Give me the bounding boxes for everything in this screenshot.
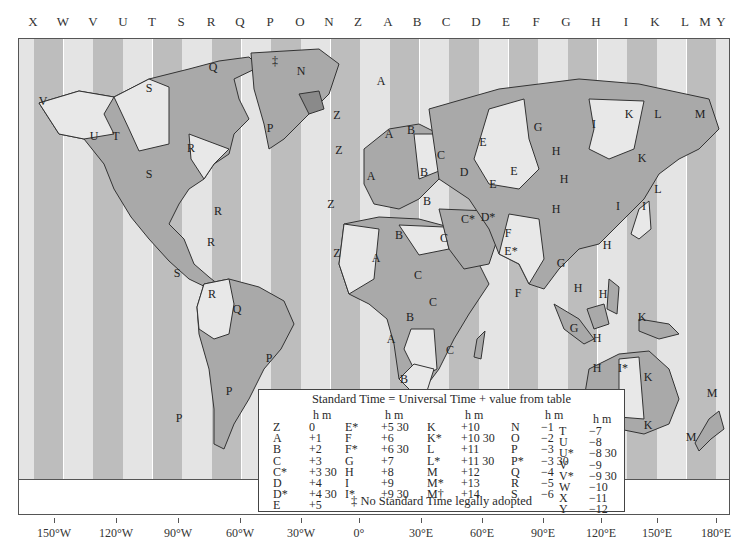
zone-label: B (420, 165, 428, 180)
zone-label: B (423, 194, 431, 209)
zone-label: P (226, 384, 233, 399)
longitude-tick (240, 518, 241, 523)
zone-label: L (654, 107, 661, 122)
zone-letter: M (699, 14, 711, 30)
legend-title: Standard Time = Universal Time + value f… (259, 394, 624, 406)
zone-label: Q (233, 302, 242, 317)
zone-letter: D (471, 14, 480, 30)
zone-label: A (387, 332, 396, 347)
zone-letter: B (413, 14, 422, 30)
zone-label: A (367, 169, 376, 184)
zone-letter-row: XWVUTSRQPONZABCDEFGHIKLMY (0, 14, 745, 34)
zone-label: S (146, 81, 153, 96)
zone-label: Z (327, 197, 334, 212)
zone-letter: G (561, 14, 570, 30)
zone-label: P (267, 121, 274, 136)
zone-label: Z (335, 143, 342, 158)
zone-label: E (489, 177, 496, 192)
longitude-label: 120°E (586, 526, 616, 541)
zone-label: I* (618, 361, 628, 376)
zone-letter: S (177, 14, 184, 30)
zone-letter: W (57, 14, 69, 30)
longitude-label: 30°W (287, 526, 315, 541)
zone-label: T (112, 129, 119, 144)
zone-letter: F (532, 14, 539, 30)
zone-label: H (560, 172, 569, 187)
zone-label: C (414, 268, 422, 283)
zone-label: R (214, 204, 222, 219)
zone-label: P (176, 411, 183, 426)
zone-label: E (479, 135, 486, 150)
zone-label: C (429, 295, 437, 310)
zone-letter: X (28, 14, 37, 30)
zone-letter: R (207, 14, 216, 30)
longitude-label: 60°E (470, 526, 494, 541)
zone-label: G (557, 256, 566, 271)
longitude-label: 0° (354, 526, 365, 541)
zone-label: K (644, 418, 653, 433)
greenland (251, 49, 339, 149)
longitude-tick (421, 518, 422, 523)
longitude-label: 180°E (701, 526, 731, 541)
zone-label: M (686, 430, 697, 445)
zone-label: K (638, 151, 647, 166)
zone-label: M (695, 107, 706, 122)
longitude-tick (601, 518, 602, 523)
zone-label: B (406, 310, 414, 325)
zone-letter: Y (716, 14, 725, 30)
zone-label: D (460, 165, 469, 180)
longitude-label: 120°W (99, 526, 133, 541)
zone-label: L (654, 182, 661, 197)
zone-letter: I (624, 14, 628, 30)
longitude-label: 150°E (642, 526, 672, 541)
zone-label: B (395, 228, 403, 243)
zone-label: G (534, 120, 543, 135)
longitude-label: 90°E (531, 526, 555, 541)
zone-label: K (644, 370, 653, 385)
zone-label: C* (461, 212, 475, 227)
longitude-tick (301, 518, 302, 523)
zone-label: I (642, 199, 646, 214)
zone-label: R (207, 235, 215, 250)
zone-label: I (592, 117, 596, 132)
zone-label: Z (333, 246, 340, 261)
zone-letter: A (383, 14, 392, 30)
zone-letter: Q (235, 14, 244, 30)
zone-label: A (385, 127, 394, 142)
zone-label: H (593, 361, 602, 376)
time-zone-legend: Standard Time = Universal Time + value f… (258, 389, 625, 512)
legend-hm-header: h m (313, 410, 331, 422)
zone-label: B (407, 123, 415, 138)
zone-letter: Z (354, 14, 362, 30)
longitude-tick (657, 518, 658, 523)
zone-label: E (510, 164, 517, 179)
zone-label: R (187, 141, 195, 156)
longitude-tick (116, 518, 117, 523)
zone-letter: P (266, 14, 273, 30)
longitude-tick (54, 518, 55, 523)
zone-label: F (515, 286, 522, 301)
zone-label: A (372, 251, 381, 266)
zone-label: V (39, 94, 48, 109)
zone-label: H (574, 281, 583, 296)
zone-label: N (297, 64, 306, 79)
zone-label: G (570, 321, 579, 336)
zone-label: H (603, 238, 612, 253)
zone-label: U (90, 129, 99, 144)
zone-label: M (707, 386, 718, 401)
zone-letter: K (650, 14, 659, 30)
longitude-tick (482, 518, 483, 523)
longitude-label: 150°W (37, 526, 71, 541)
zone-label: F (505, 226, 512, 241)
longitude-tick (178, 518, 179, 523)
zone-label: K (638, 310, 647, 325)
zone-label: Q (209, 60, 218, 75)
zone-label: C (440, 231, 448, 246)
zone-label: I (616, 199, 620, 214)
zone-letter: N (324, 14, 333, 30)
zone-label: H (599, 287, 608, 302)
zone-letter: E (502, 14, 510, 30)
longitude-label: 30°E (409, 526, 433, 541)
longitude-tick (359, 518, 360, 523)
zone-letter: L (681, 14, 689, 30)
